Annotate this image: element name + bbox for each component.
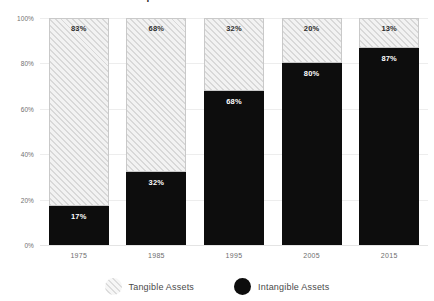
bar-segment-label: 83%	[50, 24, 108, 33]
bar-group[interactable]: 20%80%	[282, 18, 342, 245]
bar-segment-tangible[interactable]: 83%	[49, 18, 109, 206]
bar-segment-label: 87%	[359, 54, 419, 63]
legend-item[interactable]: Tangible Assets	[105, 278, 195, 295]
stacked-bar-chart: Components of S&P 500 Market Value 83%17…	[0, 0, 434, 301]
bar-segment-label: 68%	[204, 97, 264, 106]
bar-segment-label: 13%	[360, 24, 418, 33]
bar-segment-intangible[interactable]: 80%	[282, 63, 342, 245]
bar-segment-tangible[interactable]: 20%	[282, 18, 342, 63]
legend-label: Intangible Assets	[258, 282, 329, 292]
bar-segment-label: 20%	[283, 24, 341, 33]
y-axis-tick-label: 80%	[0, 60, 34, 67]
y-axis-tick-label: 60%	[0, 105, 34, 112]
x-axis-tick-label: 1985	[126, 252, 186, 259]
bar-segment-label: 80%	[282, 69, 342, 78]
plot-area: 83%17%68%32%32%68%20%80%13%87%	[40, 18, 428, 245]
y-axis-tick-label: 0%	[0, 242, 34, 249]
legend-item[interactable]: Intangible Assets	[234, 278, 329, 295]
bar-segment-label: 68%	[127, 24, 185, 33]
bar-group[interactable]: 68%32%	[126, 18, 186, 245]
bar-segment-label: 17%	[49, 212, 109, 221]
chart-title: Components of S&P 500 Market Value	[0, 0, 434, 2]
solid-circle-icon	[234, 278, 251, 295]
x-axis-tick-label: 1975	[49, 252, 109, 259]
x-axis-tick-label: 2005	[282, 252, 342, 259]
bar-segment-tangible[interactable]: 32%	[204, 18, 264, 91]
bar-segment-intangible[interactable]: 32%	[126, 172, 186, 245]
bar-segment-tangible[interactable]: 68%	[126, 18, 186, 172]
hatched-circle-icon	[105, 278, 122, 295]
y-axis-tick-label: 20%	[0, 196, 34, 203]
bar-segment-label: 32%	[126, 178, 186, 187]
legend-label: Tangible Assets	[129, 282, 195, 292]
gridline	[40, 245, 428, 246]
bar-segment-tangible[interactable]: 13%	[359, 18, 419, 48]
y-axis-tick-label: 100%	[0, 15, 34, 22]
x-axis-tick-label: 1995	[204, 252, 264, 259]
bar-group[interactable]: 13%87%	[359, 18, 419, 245]
bar-segment-label: 32%	[205, 24, 263, 33]
bar-group[interactable]: 83%17%	[49, 18, 109, 245]
x-axis-tick-label: 2015	[359, 252, 419, 259]
bar-segment-intangible[interactable]: 17%	[49, 206, 109, 245]
bar-group[interactable]: 32%68%	[204, 18, 264, 245]
y-axis-tick-label: 40%	[0, 151, 34, 158]
chart-legend: Tangible AssetsIntangible Assets	[0, 278, 434, 295]
bar-segment-intangible[interactable]: 68%	[204, 91, 264, 245]
bar-segment-intangible[interactable]: 87%	[359, 48, 419, 245]
